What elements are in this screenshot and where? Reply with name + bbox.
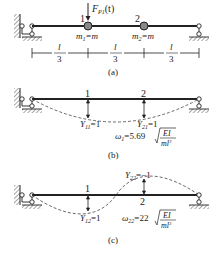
- panel-b: 1 2 Y11=1 Y21=1 ω1=5.69 EI ml3 (b): [14, 88, 209, 160]
- y22-label: Y22=−1: [125, 170, 151, 181]
- mode-shape-1: [32, 99, 199, 122]
- span-label-3: l 3: [166, 42, 178, 64]
- force-arrow-icon: [86, 3, 91, 21]
- deflection-arrow-1-icon: [87, 100, 90, 118]
- svg-text:ml3: ml3: [161, 139, 172, 148]
- svg-text:3: 3: [113, 54, 118, 64]
- left-support-icon: [14, 185, 42, 209]
- deflection-arrow-1-icon: [87, 196, 90, 211]
- svg-text:3: 3: [57, 54, 62, 64]
- deflection-arrow-2-icon: [143, 100, 146, 118]
- svg-text:ω22=22: ω22=22: [122, 213, 148, 224]
- y12-label: Y12=1: [80, 213, 101, 224]
- svg-text:3: 3: [169, 54, 174, 64]
- panel-c: 1 2 Y12=1 Y22=−1 ω22=22 EI ml3 (c): [14, 170, 209, 245]
- caption-a: (a): [108, 67, 118, 77]
- node-1-label: 1: [85, 88, 90, 99]
- svg-text:l: l: [114, 42, 117, 52]
- left-support-icon: [14, 14, 42, 41]
- node-2-label: 2: [141, 88, 146, 99]
- mass-2-label: m2=m: [132, 31, 155, 42]
- y21-label: Y21=1: [137, 119, 158, 130]
- omega-2-formula: ω22=22 EI ml3: [122, 210, 176, 230]
- omega-1-formula: ω1=5.69 EI ml3: [115, 128, 176, 148]
- node-2-label: 2: [140, 196, 145, 207]
- panel-a: FP1(t) 1 2 m1=m m2=m l 3 l: [14, 3, 209, 77]
- node-2-label: 2: [135, 13, 140, 24]
- span-label-2: l 3: [110, 42, 122, 64]
- svg-text:EI: EI: [162, 129, 171, 138]
- left-support-icon: [14, 88, 42, 113]
- span-label-1: l 3: [54, 42, 66, 64]
- svg-text:ml3: ml3: [161, 221, 172, 230]
- svg-text:ω1=5.69: ω1=5.69: [115, 131, 146, 142]
- force-label: FP1(t): [91, 3, 114, 15]
- node-1-label: 1: [80, 13, 85, 24]
- node-1-label: 1: [85, 183, 90, 194]
- deflection-arrow-2-icon: [143, 179, 146, 194]
- mass-2-icon: [140, 22, 148, 30]
- y11-label: Y11=1: [80, 119, 100, 130]
- svg-text:l: l: [170, 42, 173, 52]
- caption-b: (b): [108, 150, 119, 160]
- mass-1-icon: [84, 22, 92, 30]
- mass-1-label: m1=m: [76, 31, 99, 42]
- caption-c: (c): [108, 235, 118, 245]
- svg-text:EI: EI: [162, 211, 171, 220]
- beam-diagram: FP1(t) 1 2 m1=m m2=m l 3 l: [0, 0, 223, 256]
- svg-text:l: l: [58, 42, 61, 52]
